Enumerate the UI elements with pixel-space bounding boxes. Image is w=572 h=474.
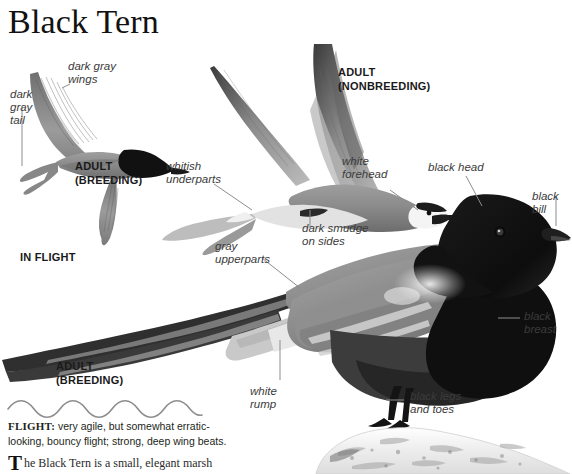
label-black-legs-and-toes: black legs and toes [410,390,461,416]
label-black-breast: black breast [524,310,556,336]
drop-cap: T [8,456,22,471]
label-white-forehead: white forehead [342,155,387,181]
caption-adult-breeding-perched: ADULT (BREEDING) [56,360,123,387]
label-dark-gray-tail: dark gray tail [10,88,32,127]
field-guide-page: Black Tern dark gray wings dark gray tai… [0,0,572,474]
label-white-rump: white rump [250,385,277,411]
flight-note: FLIGHT: very agile, but somewhat erratic… [8,419,240,448]
flight-pattern-squiggle [8,401,202,418]
label-black-bill: black bill [532,190,559,216]
label-gray-upperparts: gray upperparts [215,240,270,266]
label-whitish-underparts: whitish underparts [166,160,221,186]
body-paragraph: The Black Tern is a small, elegant marsh [8,456,300,474]
label-dark-smudge-on-sides: dark smudge on sides [302,222,368,248]
flight-note-heading: FLIGHT: [8,420,55,432]
page-title: Black Tern [8,2,159,42]
label-black-head: black head [428,161,484,174]
caption-adult-nonbreeding: ADULT (NONBREEDING) [338,66,430,93]
caption-adult-breeding-flight: ADULT (BREEDING) [75,160,142,187]
caption-in-flight: IN FLIGHT [20,251,76,265]
body-paragraph-text: he Black Tern is a small, elegant marsh [24,456,212,470]
figure-flying-breeding [20,72,190,245]
label-dark-gray-wings: dark gray wings [68,60,116,86]
